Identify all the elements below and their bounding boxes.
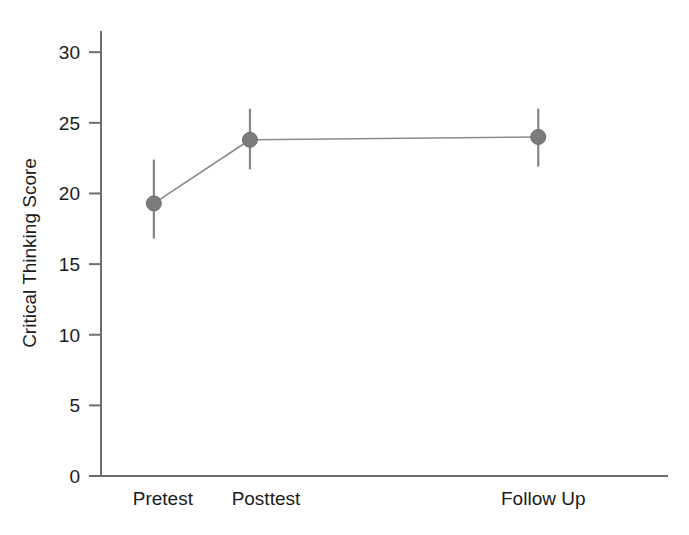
series-polyline (154, 137, 538, 203)
chart-container: 051015202530 PretestPosttestFollow Up Cr… (0, 0, 689, 535)
error-bars (154, 109, 538, 239)
y-axis-tick-label: 15 (59, 254, 80, 275)
x-axis-category-label: Pretest (133, 488, 194, 509)
y-axis-tick-label: 10 (59, 325, 80, 346)
data-series-line (154, 137, 538, 203)
chart-axes (101, 31, 668, 476)
y-axis-tick-label: 20 (59, 183, 80, 204)
data-point-marker (531, 129, 546, 144)
data-point-marker (146, 196, 161, 211)
x-axis-category-label: Posttest (232, 488, 301, 509)
y-axis-tick-label: 30 (59, 42, 80, 63)
line-chart-with-error-bars: 051015202530 PretestPosttestFollow Up Cr… (0, 0, 689, 535)
data-point-markers (146, 129, 545, 210)
y-axis-ticks (89, 52, 101, 476)
y-axis-title: Critical Thinking Score (19, 158, 40, 348)
y-axis-tick-label: 5 (69, 395, 80, 416)
y-axis-tick-label: 25 (59, 113, 80, 134)
x-axis-category-label: Follow Up (501, 488, 585, 509)
y-axis-tick-labels: 051015202530 (59, 42, 80, 487)
y-axis-tick-label: 0 (69, 466, 80, 487)
data-point-marker (242, 132, 257, 147)
x-axis-category-labels: PretestPosttestFollow Up (133, 488, 586, 509)
